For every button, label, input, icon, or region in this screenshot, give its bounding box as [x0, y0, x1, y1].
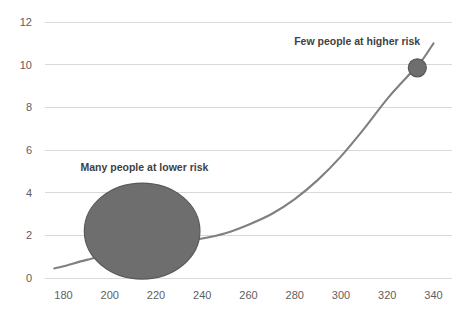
y-axis-tick-label: 10 — [20, 59, 32, 71]
chart-screenshot: 024681012 180200220240260280300320340 Ma… — [0, 0, 463, 314]
annotation-high-risk: Few people at higher risk — [294, 35, 420, 47]
x-axis-tick-label: 300 — [332, 289, 350, 301]
x-axis-tick-label: 240 — [193, 289, 211, 301]
y-axis-tick-label: 0 — [26, 272, 32, 284]
x-axis-tick-label: 340 — [424, 289, 442, 301]
y-axis-tick-label: 6 — [26, 144, 32, 156]
y-axis-tick-label: 8 — [26, 101, 32, 113]
risk-curve-chart: 024681012 180200220240260280300320340 Ma… — [0, 0, 463, 314]
x-axis-tick-label: 180 — [54, 289, 72, 301]
high-risk-point-marker — [408, 59, 426, 77]
x-axis-tick-label: 220 — [147, 289, 165, 301]
x-axis-tick-label: 320 — [378, 289, 396, 301]
x-axis-tick-label: 200 — [101, 289, 119, 301]
y-axis-tick-label: 4 — [26, 187, 32, 199]
annotation-low-risk: Many people at lower risk — [81, 161, 209, 173]
x-axis-tick-label: 280 — [286, 289, 304, 301]
y-axis-tick-label: 2 — [26, 229, 32, 241]
x-axis-tick-labels: 180200220240260280300320340 — [54, 289, 442, 301]
low-risk-population-ellipse — [84, 183, 200, 279]
x-axis-tick-label: 260 — [239, 289, 257, 301]
y-axis-tick-label: 12 — [20, 16, 32, 28]
